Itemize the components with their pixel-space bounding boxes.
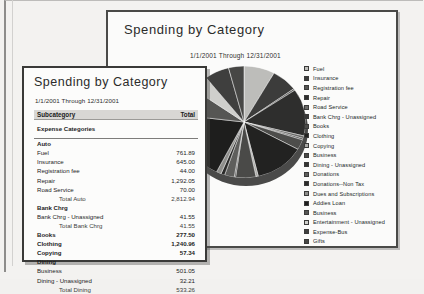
legend-label: Dues and Subscriptions: [313, 191, 374, 197]
legend-item: Business: [304, 208, 396, 218]
table-row[interactable]: Total Bank Chrg41.55: [34, 221, 198, 230]
legend-label: Business: [313, 152, 337, 158]
report-title: Spending by Category: [34, 75, 168, 89]
legend-item: Donations: [304, 170, 396, 180]
table-row[interactable]: Insurance645.00: [34, 157, 198, 166]
row-label: Bank Chrg: [37, 204, 68, 211]
row-label: Total Dining: [37, 286, 91, 293]
legend-label: Road Service: [313, 104, 348, 110]
table-row[interactable]: Business501.05: [34, 266, 198, 275]
row-label: Bank Chrg - Unassigned: [37, 213, 103, 220]
legend-label: Fuel: [313, 66, 324, 72]
row-label: Total Bank Chrg: [37, 222, 102, 229]
row-label: Insurance: [37, 158, 64, 165]
legend-label: Clothing: [313, 133, 334, 139]
row-label: Books: [37, 231, 56, 238]
legend-item: Bank Chrg - Unassigned: [304, 112, 396, 122]
table-row[interactable]: Total Auto2,812.94: [34, 194, 198, 203]
legend-swatch-icon: [304, 162, 309, 167]
legend-item: Donations--Non Tax: [304, 179, 396, 189]
legend-label: Gifts: [313, 238, 325, 244]
legend-swatch-icon: [304, 114, 309, 119]
legend-item: Clothing: [304, 131, 396, 141]
legend-item: Addies Loan: [304, 198, 396, 208]
legend-label: Copying: [313, 143, 334, 149]
legend-swatch-icon: [304, 85, 309, 90]
table-row[interactable]: Books277.50: [34, 230, 198, 239]
legend-swatch-icon: [304, 191, 309, 196]
legend-swatch-icon: [304, 124, 309, 129]
row-value: 761.89: [176, 149, 195, 156]
table-row[interactable]: Road Service70.00: [34, 185, 198, 194]
row-label: Total Auto: [37, 195, 86, 202]
table-header-row: Subcategory Total: [34, 110, 198, 120]
table-row[interactable]: Copying57.34: [34, 248, 198, 257]
legend-label: Addies Loan: [313, 200, 345, 206]
legend-swatch-icon: [304, 95, 309, 100]
row-value: 533.26: [176, 286, 195, 293]
row-value: 57.34: [180, 249, 195, 256]
table-body: AutoFuel761.89Insurance645.00Registratio…: [34, 139, 198, 294]
row-value: 1,292.05: [171, 177, 195, 184]
legend-item: Registration fee: [304, 83, 396, 93]
legend-swatch-icon: [304, 133, 309, 138]
row-value: 2,812.94: [171, 195, 195, 202]
row-value: 41.55: [180, 213, 195, 220]
report-subtitle: 1/1/2001 Through 12/31/2001: [35, 97, 119, 104]
table-row[interactable]: Clothing1,240.96: [34, 239, 198, 248]
table-row[interactable]: Dining - Unassigned32.21: [34, 276, 198, 285]
legend-swatch-icon: [304, 105, 309, 110]
legend-swatch-icon: [304, 210, 309, 215]
legend-item: Copying: [304, 141, 396, 151]
legend-label: Repair: [313, 95, 330, 101]
legend-item: Expense-Bus: [304, 227, 396, 237]
row-label: Auto: [37, 140, 51, 147]
table-row[interactable]: Repair1,292.05: [34, 175, 198, 184]
legend-swatch-icon: [304, 220, 309, 225]
legend-label: Registration fee: [313, 85, 354, 91]
row-value: 277.50: [176, 231, 195, 238]
legend-label: Entertainment - Unassigned: [313, 219, 385, 225]
legend-item: Repair: [304, 93, 396, 103]
legend-item: Dining - Unassigned: [304, 160, 396, 170]
table-row[interactable]: Total Dining533.26: [34, 285, 198, 294]
legend-item: Fuel: [304, 64, 396, 74]
row-value: 70.00: [180, 186, 195, 193]
row-label: Road Service: [37, 186, 74, 193]
section-header-row: Expense Categories: [34, 124, 198, 133]
legend-label: Dining - Unassigned: [313, 162, 365, 168]
row-value: 645.00: [176, 158, 195, 165]
legend-label: Donations: [313, 171, 339, 177]
legend-label: Expense-Bus: [313, 229, 347, 235]
table-row[interactable]: Registration fee44.00: [34, 166, 198, 175]
legend-swatch-icon: [304, 153, 309, 158]
table-row[interactable]: Bank Chrg - Unassigned41.55: [34, 212, 198, 221]
legend-item: Books: [304, 122, 396, 132]
legend-swatch-icon: [304, 239, 309, 244]
row-value: 501.05: [176, 267, 195, 274]
row-value: 32.21: [180, 277, 195, 284]
chart-subtitle: 1/1/2001 Through 12/31/2001: [190, 52, 281, 59]
legend-swatch-icon: [304, 201, 309, 206]
legend-swatch-icon: [304, 143, 309, 148]
row-label: Dining - Unassigned: [37, 277, 92, 284]
row-value: 41.55: [180, 222, 195, 229]
table-row[interactable]: Bank Chrg: [34, 203, 198, 212]
table-row[interactable]: Auto: [34, 139, 198, 148]
column-header-total: Total: [180, 111, 195, 118]
report-window[interactable]: Spending by Category 1/1/2001 Through 12…: [22, 66, 207, 262]
row-value: 1,240.96: [171, 240, 195, 247]
row-label: Copying: [37, 249, 61, 256]
legend-swatch-icon: [304, 181, 309, 186]
row-label: Registration fee: [37, 167, 80, 174]
table-row[interactable]: Fuel761.89: [34, 148, 198, 157]
legend-swatch-icon: [304, 172, 309, 177]
legend-item: Entertainment - Unassigned: [304, 218, 396, 228]
legend-label: Books: [313, 123, 329, 129]
legend-label: Business: [313, 210, 337, 216]
table-row[interactable]: Dining: [34, 257, 198, 266]
row-label: Business: [37, 267, 62, 274]
legend-swatch-icon: [304, 229, 309, 234]
chart-legend: FuelInsuranceRegistration feeRepairRoad …: [304, 64, 396, 246]
